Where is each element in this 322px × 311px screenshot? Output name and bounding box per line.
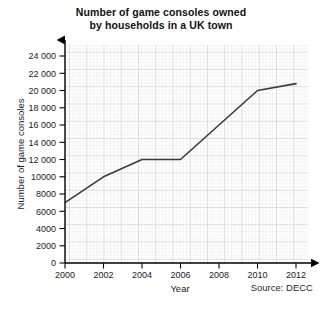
y-tick-label: 0 bbox=[51, 258, 56, 268]
x-axis-tick-labels: 2000 2002 2004 2006 2008 2010 2012 bbox=[55, 270, 306, 280]
x-tick-label: 2002 bbox=[93, 270, 113, 280]
x-tick-label: 2010 bbox=[247, 270, 267, 280]
x-axis-ticks bbox=[65, 263, 296, 269]
y-tick-label: 8000 bbox=[36, 189, 56, 199]
x-tick-label: 2006 bbox=[170, 270, 190, 280]
y-tick-label: 12 000 bbox=[28, 155, 56, 165]
y-tick-label: 18 000 bbox=[28, 103, 56, 113]
y-tick-label: 24 000 bbox=[28, 51, 56, 61]
y-axis-title: Number of game consoles bbox=[15, 98, 26, 209]
source-note: Source: DECC bbox=[251, 282, 313, 293]
y-tick-label: 20 000 bbox=[28, 86, 56, 96]
y-tick-label: 10000 bbox=[31, 172, 56, 182]
x-tick-label: 2004 bbox=[132, 270, 152, 280]
x-tick-label: 2000 bbox=[55, 270, 75, 280]
y-axis-ticks bbox=[60, 56, 66, 263]
x-axis-title: Year bbox=[170, 283, 189, 294]
y-tick-label: 16 000 bbox=[28, 120, 56, 130]
y-tick-label: 6000 bbox=[36, 207, 56, 217]
y-tick-label: 22 000 bbox=[28, 69, 56, 79]
y-axis-tick-labels: 0 2000 4000 6000 8000 10000 12 000 14 00… bbox=[28, 51, 56, 268]
y-tick-label: 2000 bbox=[36, 241, 56, 251]
x-tick-label: 2008 bbox=[209, 270, 229, 280]
chart-svg: 0 2000 4000 6000 8000 10000 12 000 14 00… bbox=[0, 0, 322, 311]
x-tick-label: 2012 bbox=[286, 270, 306, 280]
y-tick-label: 4000 bbox=[36, 224, 56, 234]
chart-container: Number of game consoles owned by househo… bbox=[0, 0, 322, 311]
y-tick-label: 14 000 bbox=[28, 138, 56, 148]
